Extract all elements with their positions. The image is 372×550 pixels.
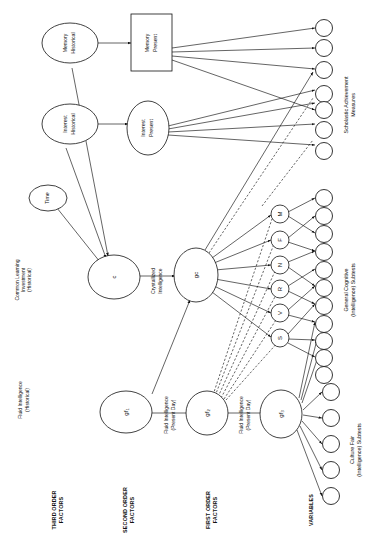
node-factor-R[interactable]: R bbox=[271, 280, 289, 298]
edge-R-var2 bbox=[288, 291, 315, 304]
node-memory-present-line2: Present bbox=[152, 34, 158, 52]
svg-text:SECOND ORDER: SECOND ORDER bbox=[122, 487, 128, 533]
node-c[interactable]: c bbox=[88, 255, 140, 299]
variable-group-scholastic bbox=[316, 20, 333, 160]
node-gf1[interactable]: gf1 bbox=[100, 391, 152, 433]
edge-label-crystallized: Crystallized Intelligence bbox=[150, 268, 163, 294]
variable-circle[interactable] bbox=[323, 462, 340, 479]
edge-time-c bbox=[57, 208, 100, 262]
node-factor-N[interactable]: N bbox=[271, 256, 289, 274]
node-time[interactable]: Time bbox=[29, 185, 67, 211]
svg-text:FACTORS: FACTORS bbox=[129, 496, 135, 523]
path-diagram-svg: Memory Historical Interest Historical Ti… bbox=[0, 0, 372, 550]
node-interest-present[interactable]: Interest Present bbox=[127, 101, 169, 155]
edge-gc-sch-dashed1 bbox=[209, 98, 313, 253]
node-factor-R-label: R bbox=[277, 286, 283, 291]
svg-text:THIRD ORDER: THIRD ORDER bbox=[51, 490, 57, 529]
svg-text:Fluid Intelligence: Fluid Intelligence bbox=[238, 396, 244, 434]
variable-circle[interactable] bbox=[316, 298, 333, 315]
edge-gf3-cf-var3 bbox=[302, 421, 322, 444]
svg-text:(Intelligence) Subtests: (Intelligence) Subtests bbox=[356, 423, 362, 477]
variable-circle[interactable] bbox=[316, 367, 333, 384]
variable-circle[interactable] bbox=[316, 190, 333, 207]
node-c-label: c bbox=[111, 276, 117, 279]
svg-text:(Historical): (Historical) bbox=[24, 388, 30, 412]
edge-mempresent-var4 bbox=[172, 60, 315, 110]
variable-circle[interactable] bbox=[316, 122, 333, 139]
variable-group-general-cognitive bbox=[316, 190, 333, 384]
variable-circle[interactable] bbox=[316, 333, 333, 350]
edge-gf3-cf-var2 bbox=[303, 415, 322, 418]
variable-circle[interactable] bbox=[316, 244, 333, 261]
group-label-culture-fair: Culture Fair (Intelligence) Subtests bbox=[349, 423, 362, 477]
node-factor-V[interactable]: V bbox=[271, 304, 289, 322]
edge-gf3-cf-var4 bbox=[300, 426, 322, 470]
edge-gc-R bbox=[215, 279, 271, 289]
node-factor-S[interactable]: S bbox=[271, 329, 289, 347]
node-gc-label: gc bbox=[193, 272, 199, 278]
group-label-scholastic: Scholastic Achievement Measures bbox=[343, 76, 356, 133]
variable-group-culture-fair bbox=[323, 384, 340, 505]
edge-gc-F bbox=[214, 240, 271, 263]
node-interest-historical-line2: Historical bbox=[70, 113, 76, 134]
svg-text:FIRST ORDER: FIRST ORDER bbox=[205, 491, 211, 529]
svg-text:VARIABLES: VARIABLES bbox=[308, 494, 314, 526]
edge-F-var1 bbox=[288, 216, 315, 238]
variable-circle[interactable] bbox=[316, 208, 333, 225]
svg-text:(Intelligence) Subtests: (Intelligence) Subtests bbox=[350, 263, 356, 317]
edge-gf3-cf-var1 bbox=[303, 392, 322, 410]
column-header-variables: VARIABLES bbox=[308, 494, 314, 526]
node-interest-present-line2: Present bbox=[148, 119, 154, 137]
svg-text:Intelligence: Intelligence bbox=[157, 268, 163, 294]
svg-text:(Present Day): (Present Day) bbox=[170, 399, 176, 430]
variable-circle[interactable] bbox=[316, 40, 333, 57]
variable-circle[interactable] bbox=[316, 102, 333, 119]
node-factor-V-label: V bbox=[277, 311, 283, 315]
edge-gf3-gc-var1 bbox=[299, 322, 315, 398]
edge-mempresent-var3 bbox=[172, 56, 315, 69]
svg-text:(Historical): (Historical) bbox=[26, 268, 32, 292]
column-header-first-order: FIRST ORDER FACTORS bbox=[205, 491, 218, 529]
edge-gc-M bbox=[212, 215, 271, 258]
node-factor-M-label: M bbox=[277, 212, 283, 217]
group-label-layer: Scholastic Achievement Measures General … bbox=[343, 76, 362, 477]
svg-text:(Present Day): (Present Day) bbox=[245, 399, 251, 430]
edge-gf1-gc bbox=[152, 300, 190, 394]
svg-text:Fluid Intelligence: Fluid Intelligence bbox=[163, 396, 169, 434]
node-memory-present[interactable]: Memory Present bbox=[131, 14, 172, 71]
node-factor-F-label: F bbox=[277, 238, 283, 242]
node-gf3[interactable]: gf3 bbox=[260, 390, 302, 438]
node-factor-F[interactable]: F bbox=[271, 231, 289, 249]
edge-gc-N bbox=[215, 265, 271, 270]
column-header-layer: THIRD ORDER FACTORS SECOND ORDER FACTORS… bbox=[51, 487, 314, 533]
variable-circle[interactable] bbox=[323, 488, 340, 505]
node-gf2[interactable]: gf2 bbox=[186, 391, 228, 435]
variable-circle[interactable] bbox=[316, 143, 333, 160]
variable-circle[interactable] bbox=[316, 280, 333, 297]
variable-circle[interactable] bbox=[316, 350, 333, 367]
edge-intpresent-var4 bbox=[168, 135, 315, 145]
edge-F-var2 bbox=[288, 242, 315, 251]
svg-text:Fluid Intelligence: Fluid Intelligence bbox=[17, 381, 23, 419]
variable-circle[interactable] bbox=[323, 410, 340, 427]
node-memory-historical[interactable]: Memory Historical bbox=[42, 23, 98, 63]
node-interest-historical[interactable]: Interest Historical bbox=[42, 104, 98, 144]
edge-gf2-M-dashed bbox=[213, 219, 272, 395]
variable-circle[interactable] bbox=[316, 262, 333, 279]
node-factor-M[interactable]: M bbox=[271, 205, 289, 223]
variable-circle[interactable] bbox=[323, 436, 340, 453]
edge-gf3-gc-var3 bbox=[302, 357, 318, 403]
variable-circle[interactable] bbox=[316, 62, 333, 79]
variable-circle[interactable] bbox=[316, 86, 333, 103]
variable-circle[interactable] bbox=[316, 316, 333, 333]
variable-circle[interactable] bbox=[323, 384, 340, 401]
variable-circle[interactable] bbox=[316, 226, 333, 243]
variable-circle[interactable] bbox=[316, 20, 333, 37]
node-memory-historical-line2: Historical bbox=[70, 32, 76, 53]
edge-inthist-c bbox=[66, 148, 106, 258]
node-gc[interactable]: gc bbox=[174, 248, 218, 302]
column-header-third-order: THIRD ORDER FACTORS bbox=[51, 490, 64, 529]
edge-N-var1 bbox=[288, 251, 315, 262]
svg-text:Measures: Measures bbox=[350, 93, 356, 117]
edge-memhist-c bbox=[72, 68, 108, 256]
